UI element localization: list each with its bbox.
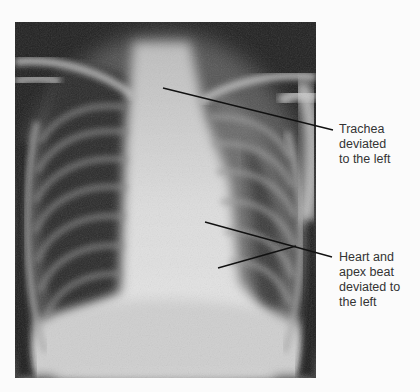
trachea-label: Trachea deviated to the left	[339, 122, 390, 167]
chest-xray-image	[15, 22, 316, 378]
heart-label: Heart and apex beat deviated to the left	[339, 250, 400, 310]
